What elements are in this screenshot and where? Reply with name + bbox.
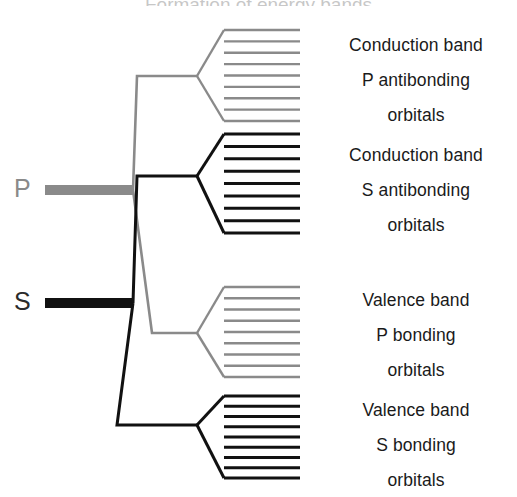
- caption-line-3: orbitals: [318, 98, 514, 133]
- caption-line-2: S bonding: [318, 428, 514, 463]
- caption-line-1: Valence band: [318, 393, 514, 428]
- band-caption-conduction-s-antibonding: Conduction band S antibonding orbitals: [318, 138, 514, 243]
- fan-edge-p-antibonding-top: [197, 30, 224, 76]
- band-caption-conduction-p-antibonding: Conduction band P antibonding orbitals: [318, 28, 514, 133]
- fan-edge-s-bonding-top: [197, 396, 224, 425]
- caption-line-3: orbitals: [318, 463, 514, 497]
- band-caption-valence-p-bonding: Valence band P bonding orbitals: [318, 283, 514, 388]
- energy-band-diagram: Formation of energy bands P S: [0, 0, 517, 497]
- p-antibonding-branch: [133, 76, 197, 190]
- p-orbital-label: P: [14, 176, 31, 201]
- fan-edge-p-bonding-top: [197, 287, 224, 333]
- caption-line-2: S antibonding: [318, 173, 514, 208]
- caption-line-3: orbitals: [318, 208, 514, 243]
- caption-line-1: Conduction band: [318, 28, 514, 63]
- fan-edge-p-bonding-bottom: [197, 333, 224, 377]
- s-orbital-label: S: [14, 289, 31, 314]
- caption-line-3: orbitals: [318, 353, 514, 388]
- band-levels-valence-s-bonding: [224, 396, 300, 478]
- s-antibonding-branch: [133, 176, 197, 303]
- p-atomic-level-bar: [45, 185, 133, 195]
- caption-line-2: P antibonding: [318, 63, 514, 98]
- fan-edge-s-bonding-bottom: [197, 425, 224, 478]
- band-levels-conduction-p-antibonding: [224, 30, 300, 121]
- fan-edge-s-antibonding-bottom: [197, 176, 224, 233]
- band-levels-valence-p-bonding: [224, 287, 300, 377]
- caption-line-2: P bonding: [318, 318, 514, 353]
- fan-edge-s-antibonding-top: [197, 134, 224, 176]
- s-bonding-branch: [117, 303, 197, 425]
- caption-line-1: Conduction band: [318, 138, 514, 173]
- fan-edge-p-antibonding-bottom: [197, 76, 224, 121]
- band-levels-conduction-s-antibonding: [224, 134, 300, 233]
- caption-line-1: Valence band: [318, 283, 514, 318]
- p-bonding-branch: [133, 190, 197, 333]
- s-atomic-level-bar: [45, 298, 133, 308]
- band-caption-valence-s-bonding: Valence band S bonding orbitals: [318, 393, 514, 497]
